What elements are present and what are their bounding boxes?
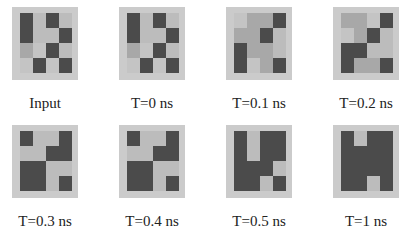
grid-cell bbox=[367, 28, 380, 43]
grid-cell bbox=[166, 13, 179, 28]
grid-cell bbox=[20, 146, 33, 161]
grid-cell bbox=[273, 43, 286, 58]
grid-cell bbox=[341, 58, 354, 73]
grid-cell bbox=[46, 131, 59, 146]
grid-cell bbox=[247, 43, 260, 58]
grid-cell bbox=[247, 13, 260, 28]
grid-cell bbox=[234, 176, 247, 191]
grid-cell bbox=[341, 161, 354, 176]
grid-cell bbox=[46, 161, 59, 176]
grid-panel: T=0.2 ns bbox=[321, 7, 407, 117]
grid-cell bbox=[153, 131, 166, 146]
grid-frame bbox=[119, 125, 185, 198]
grid-cell bbox=[140, 13, 153, 28]
grid-cell bbox=[380, 146, 393, 161]
grid-cell bbox=[46, 13, 59, 28]
grid-cell bbox=[380, 13, 393, 28]
grid-cell bbox=[46, 28, 59, 43]
grid-cell bbox=[166, 58, 179, 73]
grid-cell bbox=[127, 176, 140, 191]
panel-label: T=0.1 ns bbox=[209, 95, 309, 112]
grid-cell bbox=[247, 176, 260, 191]
grid-cell bbox=[354, 176, 367, 191]
grid-cell bbox=[140, 176, 153, 191]
grid-cell bbox=[247, 161, 260, 176]
grid-cell bbox=[367, 131, 380, 146]
grid-frame bbox=[333, 7, 399, 80]
grid-cell bbox=[33, 146, 46, 161]
grid-cell bbox=[33, 28, 46, 43]
grid-cell bbox=[260, 43, 273, 58]
panel-label: T=0 ns bbox=[102, 95, 202, 112]
pixel-grid bbox=[234, 13, 286, 73]
grid-cell bbox=[153, 146, 166, 161]
grid-cell bbox=[354, 131, 367, 146]
grid-frame bbox=[226, 7, 292, 80]
grid-cell bbox=[341, 176, 354, 191]
grid-cell bbox=[260, 13, 273, 28]
grid-cell bbox=[33, 131, 46, 146]
grid-cell bbox=[341, 28, 354, 43]
grid-cell bbox=[140, 161, 153, 176]
panel-label: T=0.3 ns bbox=[0, 213, 95, 230]
grid-cell bbox=[367, 146, 380, 161]
grid-cell bbox=[380, 176, 393, 191]
grid-cell bbox=[20, 28, 33, 43]
grid-cell bbox=[166, 28, 179, 43]
grid-cell bbox=[380, 58, 393, 73]
grid-cell bbox=[33, 58, 46, 73]
grid-cell bbox=[273, 58, 286, 73]
grid-cell bbox=[341, 13, 354, 28]
grid-cell bbox=[59, 161, 72, 176]
grid-cell bbox=[247, 58, 260, 73]
grid-cell bbox=[247, 131, 260, 146]
grid-cell bbox=[367, 161, 380, 176]
grid-cell bbox=[33, 43, 46, 58]
grid-panel: T=0 ns bbox=[107, 7, 207, 117]
grid-cell bbox=[260, 176, 273, 191]
grid-cell bbox=[127, 131, 140, 146]
grid-cell bbox=[260, 58, 273, 73]
panel-label: T=0.4 ns bbox=[102, 213, 202, 230]
grid-cell bbox=[380, 131, 393, 146]
grid-cell bbox=[166, 43, 179, 58]
grid-cell bbox=[354, 43, 367, 58]
pixel-grid bbox=[341, 131, 393, 191]
pixel-grid bbox=[127, 13, 179, 73]
grid-panel: Input bbox=[0, 7, 100, 117]
grid-cell bbox=[260, 28, 273, 43]
grid-cell bbox=[59, 43, 72, 58]
grid-cell bbox=[59, 28, 72, 43]
grid-cell bbox=[260, 146, 273, 161]
grid-panel: T=0.5 ns bbox=[214, 125, 314, 235]
grid-cell bbox=[153, 43, 166, 58]
grid-cell bbox=[153, 161, 166, 176]
grid-panel: T=0.1 ns bbox=[214, 7, 314, 117]
grid-cell bbox=[273, 176, 286, 191]
grid-cell bbox=[234, 43, 247, 58]
grid-panel: T=0.3 ns bbox=[0, 125, 100, 235]
grid-cell bbox=[166, 131, 179, 146]
grid-cell bbox=[234, 28, 247, 43]
grid-cell bbox=[153, 176, 166, 191]
grid-cell bbox=[380, 161, 393, 176]
grid-cell bbox=[140, 28, 153, 43]
grid-panel: T=1 ns bbox=[321, 125, 407, 235]
grid-cell bbox=[273, 161, 286, 176]
grid-frame bbox=[119, 7, 185, 80]
pixel-grid bbox=[20, 13, 72, 73]
pixel-grid bbox=[234, 131, 286, 191]
grid-cell bbox=[20, 13, 33, 28]
grid-cell bbox=[140, 58, 153, 73]
grid-cell bbox=[341, 146, 354, 161]
grid-cell bbox=[140, 131, 153, 146]
grid-cell bbox=[33, 176, 46, 191]
grid-cell bbox=[367, 176, 380, 191]
grid-cell bbox=[127, 146, 140, 161]
grid-frame bbox=[226, 125, 292, 198]
grid-cell bbox=[166, 161, 179, 176]
panel-label: T=0.5 ns bbox=[209, 213, 309, 230]
grid-cell bbox=[140, 43, 153, 58]
grid-cell bbox=[166, 176, 179, 191]
grid-panel: T=0.4 ns bbox=[107, 125, 207, 235]
